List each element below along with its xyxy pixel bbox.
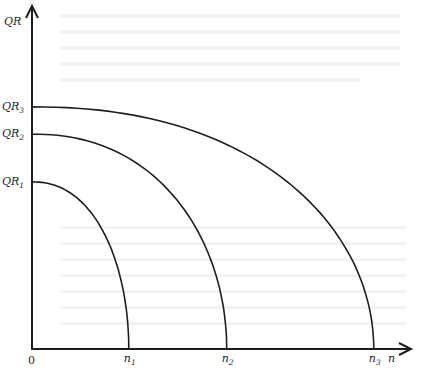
qr1-label: QR1: [2, 175, 24, 190]
n1-label: n1: [124, 352, 136, 367]
curve-2: [32, 134, 227, 349]
production-possibility-diagram: QR n 0 QR1 QR2 QR3 n1 n2 n3: [0, 0, 421, 371]
qr3-label: QR3: [2, 100, 24, 115]
n3-label: n3: [369, 352, 381, 367]
qr2-label: QR2: [2, 127, 24, 142]
y-axis-label: QR: [4, 15, 21, 28]
bleed-through-texture: [60, 14, 405, 325]
origin-label: 0: [28, 354, 35, 367]
x-axis-label: n: [388, 352, 395, 365]
n2-label: n2: [222, 352, 234, 367]
